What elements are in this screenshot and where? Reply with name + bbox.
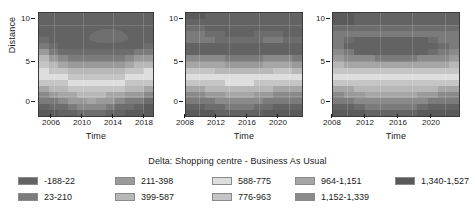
legend-item[interactable]: 211-398 <box>115 174 174 188</box>
legend-label: 1,152-1,339 <box>321 192 369 202</box>
contour-cell <box>386 110 397 116</box>
contour-cell <box>449 110 460 116</box>
legend-label: 776-963 <box>238 192 271 202</box>
contour-band <box>186 110 302 116</box>
contour-cell <box>292 110 302 116</box>
panel-2-contour-bands <box>186 13 302 116</box>
panel-1-contour-bands <box>39 13 153 116</box>
legend-swatch <box>18 177 38 185</box>
contour-cell <box>39 110 49 116</box>
contour-cell <box>375 110 386 116</box>
contour-cell <box>106 110 116 116</box>
contour-cell <box>365 110 376 116</box>
panel-3-ytick-5: 5 <box>303 57 325 66</box>
contour-cell <box>115 110 125 116</box>
legend-label: 23-210 <box>44 192 72 202</box>
panel-2-xtick-3: 2020 <box>263 118 293 127</box>
contour-cell <box>407 110 418 116</box>
contour-cell <box>333 110 344 116</box>
contour-cell <box>417 110 428 116</box>
panel-1: Distance 10 5 0 2006 2010 2014 <box>0 0 158 155</box>
legend-swatch <box>295 177 315 185</box>
legend-column-1: -188-2223-210 <box>18 174 75 206</box>
panel-3: 10 5 0 2008 2012 2016 2020 <box>306 0 475 155</box>
panel-2-ytick-0: 0 <box>156 97 178 106</box>
legend-item[interactable]: 1,340-1,527 <box>395 174 469 188</box>
panel-1-ytick-10: 10 <box>8 14 30 23</box>
panel-1-plot-area <box>38 12 154 117</box>
panel-2: 10 5 0 2008 2012 2016 2020 <box>158 0 306 155</box>
contour-band <box>39 110 153 116</box>
contour-band <box>333 110 459 116</box>
legend-swatch <box>18 193 38 201</box>
legend: -188-2223-210 211-398399-587 588-775776-… <box>0 174 475 208</box>
contour-cell <box>354 110 365 116</box>
panel-3-xtick-0: 2008 <box>317 118 347 127</box>
legend-label: 964-1,151 <box>321 176 362 186</box>
contour-cell <box>96 110 106 116</box>
contour-cell <box>225 110 235 116</box>
contour-cell <box>344 110 355 116</box>
panel-3-ytick-0: 0 <box>303 97 325 106</box>
panel-2-ytick-5: 5 <box>156 57 178 66</box>
contour-cell <box>254 110 264 116</box>
contour-cell <box>283 110 293 116</box>
legend-item[interactable]: 588-775 <box>212 174 271 188</box>
contour-cell <box>438 110 449 116</box>
panel-3-contour-bands <box>333 13 459 116</box>
panel-3-xtick-1: 2012 <box>350 118 380 127</box>
legend-column-5: 1,340-1,527 <box>395 174 469 190</box>
contour-cell <box>144 110 154 116</box>
panel-3-x-axis-label: Time <box>332 131 460 141</box>
contour-cell <box>234 110 244 116</box>
legend-column-4: 964-1,1511,152-1,339 <box>295 174 369 206</box>
legend-label: 211-398 <box>141 176 173 186</box>
legend-swatch <box>212 193 232 201</box>
panel-3-xtick-3: 2020 <box>416 118 446 127</box>
legend-label: 588-775 <box>238 176 271 186</box>
legend-title: Delta: Shopping centre - Business As Usu… <box>0 156 475 166</box>
legend-item[interactable]: 1,152-1,339 <box>295 190 369 204</box>
legend-swatch <box>212 177 232 185</box>
panel-1-xtick-1: 2010 <box>67 118 97 127</box>
panel-3-ytick-10: 10 <box>303 14 325 23</box>
legend-item[interactable]: 964-1,151 <box>295 174 369 188</box>
panel-2-ytick-10: 10 <box>156 14 178 23</box>
panel-1-xtick-0: 2006 <box>36 118 66 127</box>
panel-2-plot-area <box>185 12 303 117</box>
panel-2-xtick-2: 2016 <box>232 118 262 127</box>
contour-cell <box>125 110 135 116</box>
contour-cell <box>205 110 215 116</box>
legend-swatch <box>395 177 415 185</box>
panel-1-contour-blob <box>89 29 128 42</box>
panel-3-plot-area <box>332 12 460 117</box>
contour-cell <box>68 110 78 116</box>
contour-cell <box>263 110 273 116</box>
panel-1-ytick-0: 0 <box>8 97 30 106</box>
contour-cell <box>87 110 97 116</box>
legend-swatch <box>295 193 315 201</box>
legend-swatch <box>115 193 135 201</box>
panel-1-xtick-3: 2018 <box>129 118 159 127</box>
legend-swatch <box>115 177 135 185</box>
panel-2-xtick-0: 2008 <box>170 118 200 127</box>
panel-3-xtick-2: 2016 <box>383 118 413 127</box>
panel-1-xtick-2: 2014 <box>98 118 128 127</box>
panel-1-x-axis-label: Time <box>38 131 154 141</box>
legend-item[interactable]: -188-22 <box>18 174 75 188</box>
contour-cell <box>215 110 225 116</box>
contour-cell <box>196 110 206 116</box>
legend-item[interactable]: 23-210 <box>18 190 75 204</box>
contour-figure: Distance 10 5 0 2006 2010 2014 <box>0 0 475 213</box>
legend-label: -188-22 <box>44 176 75 186</box>
legend-label: 399-587 <box>141 192 174 202</box>
panel-2-x-axis-label: Time <box>185 131 303 141</box>
panel-2-xtick-1: 2012 <box>201 118 231 127</box>
legend-column-2: 211-398399-587 <box>115 174 174 206</box>
legend-item[interactable]: 776-963 <box>212 190 271 204</box>
legend-column-3: 588-775776-963 <box>212 174 271 206</box>
panel-1-ytick-5: 5 <box>8 57 30 66</box>
legend-item[interactable]: 399-587 <box>115 190 174 204</box>
legend-label: 1,340-1,527 <box>421 176 469 186</box>
contour-cell <box>58 110 68 116</box>
